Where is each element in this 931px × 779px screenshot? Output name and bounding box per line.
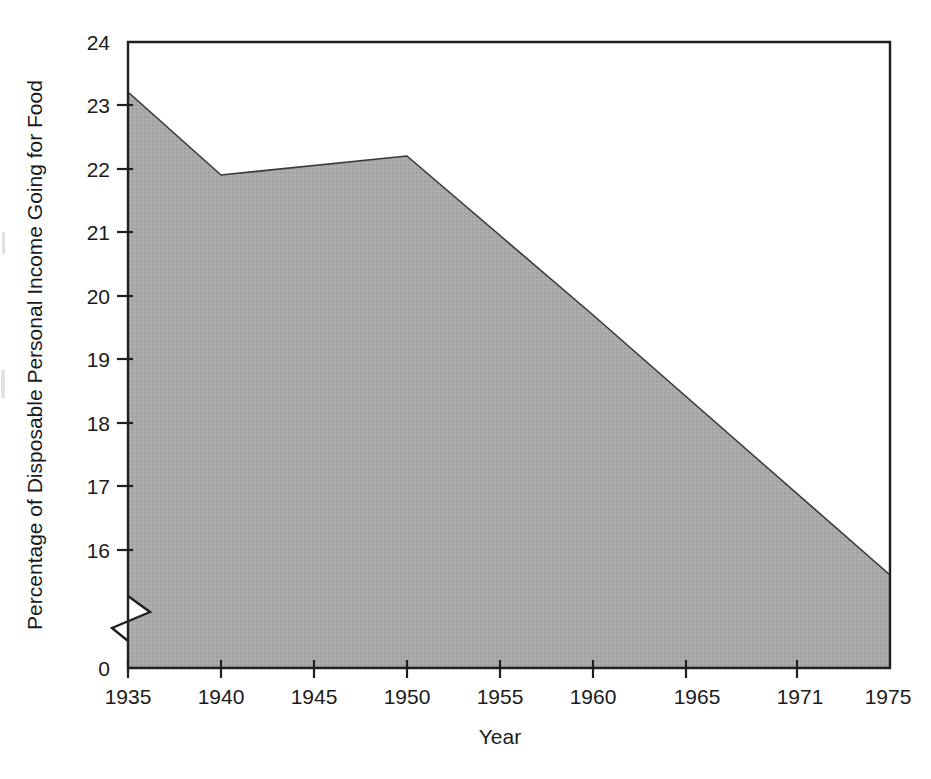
- y-tick-label-18: 18: [87, 412, 110, 435]
- y-tick-label-21: 21: [87, 221, 110, 244]
- y-tick-label-22: 22: [87, 158, 110, 181]
- area-chart-svg: 24 23 22 21 20 19 18 17 16 0 1935 1940 1…: [0, 0, 931, 779]
- data-area-group: [128, 92, 890, 668]
- x-tick-label-1965: 1965: [674, 685, 721, 708]
- y-tick-label-0: 0: [98, 657, 110, 680]
- x-tick-label-1940: 1940: [198, 685, 245, 708]
- data-area-food-percentage: [128, 92, 890, 668]
- x-axis-title: Year: [479, 725, 521, 748]
- chart-figure: 24 23 22 21 20 19 18 17 16 0 1935 1940 1…: [0, 0, 931, 779]
- x-tick-label-1955: 1955: [477, 685, 524, 708]
- x-tick-label-1960: 1960: [570, 685, 617, 708]
- y-axis-tick-labels: 24 23 22 21 20 19 18 17 16 0: [87, 31, 111, 680]
- x-tick-label-1935: 1935: [105, 685, 152, 708]
- y-tick-label-23: 23: [87, 94, 110, 117]
- y-tick-label-19: 19: [87, 348, 110, 371]
- x-tick-label-1971: 1971: [777, 685, 824, 708]
- y-tick-label-24: 24: [87, 31, 111, 54]
- x-tick-label-1945: 1945: [291, 685, 338, 708]
- x-tick-label-1950: 1950: [384, 685, 431, 708]
- x-tick-label-1975: 1975: [865, 685, 912, 708]
- y-tick-label-16: 16: [87, 539, 110, 562]
- y-tick-label-20: 20: [87, 285, 110, 308]
- y-axis-title: Percentage of Disposable Personal Income…: [23, 80, 46, 630]
- y-tick-label-17: 17: [87, 475, 110, 498]
- x-axis-tick-labels: 1935 1940 1945 1950 1955 1960 1965 1971 …: [105, 685, 912, 708]
- scan-artifact: [2, 232, 5, 254]
- scan-artifact: [1, 370, 5, 398]
